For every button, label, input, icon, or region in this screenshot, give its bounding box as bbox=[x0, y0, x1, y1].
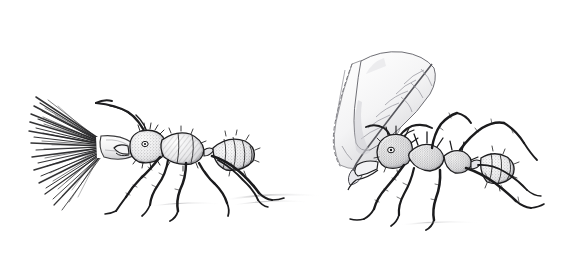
ant-illustration-artwork bbox=[0, 0, 580, 268]
illustration-plate: Ink drawing of two ants carrying plant m… bbox=[0, 0, 580, 268]
